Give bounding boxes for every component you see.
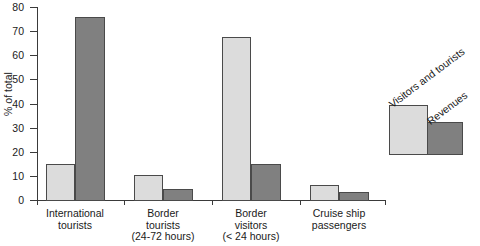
y-tick-50 [30,79,37,80]
x-tick-2 [212,200,213,205]
bar-border-visitors-revenues [251,164,281,201]
y-tick-label-80: 80 [0,2,24,13]
bar-border-tourists-revenues [163,189,193,201]
legend-swatch-revenues [427,122,463,155]
y-tick-70 [30,31,37,32]
y-tick-label-30: 30 [0,123,24,134]
x-category-label-3-line-0: Cruise ship [279,208,399,220]
y-tick-80 [30,7,37,8]
bar-international-tourists-visitors [46,164,75,201]
y-tick-30 [30,128,37,129]
x-tick-4 [385,200,386,205]
y-tick-20 [30,152,37,153]
bar-border-visitors-visitors [222,37,251,201]
bar-chart: % of total 0 10 20 30 40 50 60 70 80 Int… [0,0,480,246]
y-tick-label-70: 70 [0,26,24,37]
bar-border-tourists-visitors [134,175,163,201]
x-category-label-3: Cruise ship passengers [279,208,399,231]
y-tick-60 [30,55,37,56]
y-tick-0 [30,200,37,201]
y-tick-10 [30,176,37,177]
y-axis-line [37,7,38,201]
x-tick-1 [124,200,125,205]
legend-swatch-visitors-and-tourists [389,105,428,155]
bar-cruise-ship-passengers-revenues [339,192,369,201]
y-tick-label-60: 60 [0,50,24,61]
y-tick-label-50: 50 [0,74,24,85]
bar-international-tourists-revenues [75,17,105,201]
y-axis-title: % of total [2,59,14,129]
x-tick-0 [37,200,38,205]
y-tick-40 [30,104,37,105]
y-tick-label-10: 10 [0,171,24,182]
y-tick-label-0: 0 [0,195,24,206]
y-tick-label-20: 20 [0,147,24,158]
bar-cruise-ship-passengers-visitors [310,185,339,201]
x-category-label-2-line-2: (< 24 hours) [191,231,311,243]
x-category-label-3-line-1: passengers [279,220,399,232]
y-tick-label-40: 40 [0,99,24,110]
x-tick-3 [300,200,301,205]
